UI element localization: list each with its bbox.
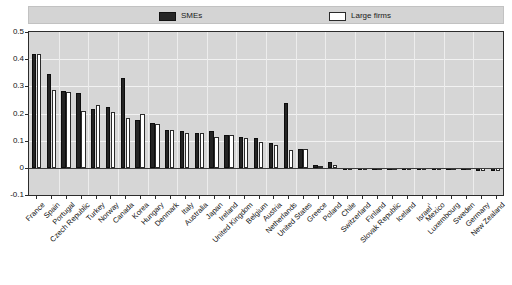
y-tick-label: 0.4: [0, 55, 24, 63]
gridline-vertical: [88, 32, 89, 195]
bar-sme: [47, 74, 51, 168]
x-tick-mark: [303, 196, 304, 199]
gridline-vertical: [236, 32, 237, 195]
legend-label-smes: SMEs: [181, 11, 202, 21]
bar-large: [170, 130, 174, 168]
x-tick-mark: [244, 196, 245, 199]
bar-large: [155, 124, 159, 167]
gridline-vertical: [148, 32, 149, 195]
bar-large: [259, 142, 263, 168]
legend-swatch-smes-icon: [159, 12, 176, 21]
y-tick-label: -0.1: [0, 191, 24, 199]
x-tick-mark: [229, 196, 230, 199]
bar-sme: [269, 143, 273, 167]
zero-baseline: [29, 168, 503, 169]
bar-sme: [76, 93, 80, 168]
y-tick-label: 0.5: [0, 28, 24, 36]
x-tick-mark: [392, 196, 393, 199]
x-tick-mark: [273, 196, 274, 199]
x-tick-mark: [66, 196, 67, 199]
x-tick-mark: [407, 196, 408, 199]
bar-large: [126, 118, 130, 168]
gridline-vertical: [444, 32, 445, 195]
bar-large: [200, 133, 204, 168]
legend-item-large-firms: Large firms: [329, 10, 391, 22]
x-tick-mark: [96, 196, 97, 199]
x-tick-mark: [288, 196, 289, 199]
bar-sme: [150, 123, 154, 168]
legend-swatch-large-firms-icon: [329, 12, 346, 21]
bar-large: [303, 149, 307, 168]
chart-legend: SMEs Large firms: [28, 6, 504, 24]
bar-large: [289, 150, 293, 168]
y-tick-label: 0.2: [0, 110, 24, 118]
x-tick-mark: [51, 196, 52, 199]
x-tick-mark: [481, 196, 482, 199]
bar-sme: [32, 54, 36, 168]
x-tick-mark: [199, 196, 200, 199]
x-tick-mark: [110, 196, 111, 199]
bar-sme: [209, 131, 213, 168]
x-tick-mark: [422, 196, 423, 199]
bar-large: [66, 92, 70, 168]
bar-sme: [298, 149, 302, 168]
x-tick-mark: [170, 196, 171, 199]
bar-sme: [135, 120, 139, 168]
gridline-vertical: [207, 32, 208, 195]
bar-large: [185, 133, 189, 168]
gridline-vertical: [355, 32, 356, 195]
x-tick-mark: [81, 196, 82, 199]
bar-large: [140, 114, 144, 168]
gridline-vertical: [473, 32, 474, 195]
y-tick-label: 0.3: [0, 82, 24, 90]
bar-sme: [121, 78, 125, 168]
x-tick-mark: [362, 196, 363, 199]
x-tick-mark: [436, 196, 437, 199]
gridline-vertical: [266, 32, 267, 195]
bar-sme: [195, 133, 199, 168]
x-tick-mark: [36, 196, 37, 199]
bar-sme: [239, 137, 243, 168]
bar-sme: [165, 130, 169, 168]
y-tick-label: 0.1: [0, 137, 24, 145]
x-tick-mark: [125, 196, 126, 199]
gridline-vertical: [118, 32, 119, 195]
bar-sme: [254, 138, 258, 168]
chart-container: SMEs Large firms 0.50.40.30.20.10-0.1 Fr…: [0, 0, 512, 285]
gridline-vertical: [385, 32, 386, 195]
bar-large: [274, 145, 278, 168]
gridline-vertical: [296, 32, 297, 195]
bar-large: [52, 90, 56, 167]
gridline-vertical: [325, 32, 326, 195]
x-tick-mark: [333, 196, 334, 199]
bar-large: [244, 138, 248, 168]
bar-large: [81, 111, 85, 168]
bar-large: [37, 54, 41, 168]
bar-sme: [180, 131, 184, 168]
bar-large: [96, 105, 100, 167]
plot-area: [28, 31, 504, 196]
x-tick-mark: [155, 196, 156, 199]
gridline-vertical: [177, 32, 178, 195]
gridline-vertical: [59, 32, 60, 195]
legend-item-smes: SMEs: [159, 10, 202, 22]
x-tick-mark: [347, 196, 348, 199]
x-tick-mark: [466, 196, 467, 199]
y-tick-label: 0: [0, 164, 24, 172]
bar-large: [214, 137, 218, 168]
bar-sme: [91, 109, 95, 167]
x-tick-mark: [318, 196, 319, 199]
bar-large: [229, 135, 233, 168]
legend-label-large-firms: Large firms: [351, 11, 391, 21]
x-tick-mark: [140, 196, 141, 199]
bar-large: [111, 112, 115, 168]
bar-sme: [224, 135, 228, 168]
bar-sme: [61, 91, 65, 168]
bar-sme: [284, 103, 288, 168]
gridline-vertical: [414, 32, 415, 195]
x-tick-mark: [377, 196, 378, 199]
x-tick-mark: [214, 196, 215, 199]
bar-sme: [106, 107, 110, 168]
x-tick-mark: [259, 196, 260, 199]
x-tick-mark: [185, 196, 186, 199]
